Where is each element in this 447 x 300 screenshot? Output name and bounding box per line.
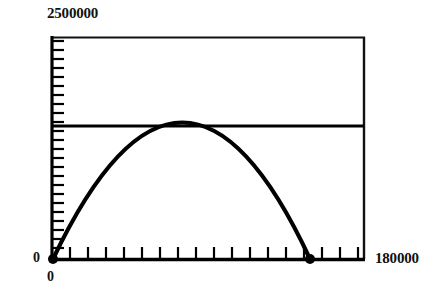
y-axis-max-label: 2500000: [47, 6, 98, 21]
x-axis: [51, 247, 365, 260]
x-axis-min-label: 0: [47, 270, 54, 284]
y-axis: [52, 36, 64, 261]
y-axis-ticks: [53, 41, 64, 248]
plot-frame: [51, 37, 365, 259]
chart-container: 2500000 0 0 180000: [0, 0, 447, 300]
y-axis-min-label: 0: [33, 251, 40, 265]
parabola-curve: [53, 123, 310, 260]
x-axis-ticks: [70, 247, 358, 258]
right-root-marker: [305, 254, 315, 264]
left-root-marker: [48, 254, 58, 264]
x-axis-max-label: 180000: [375, 251, 419, 266]
